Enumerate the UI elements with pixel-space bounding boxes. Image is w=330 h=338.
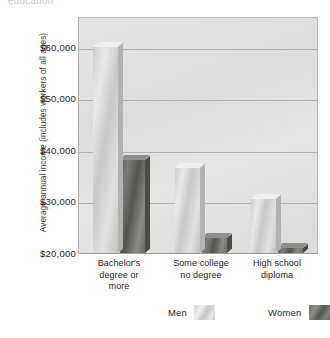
x-category-label-2: High schooldiploma [232,258,322,281]
legend-label: Men [168,307,187,318]
y-tick-label: $50,000 [24,93,76,104]
chart-legend: MenWomen [0,305,329,331]
bar-front-face [175,168,200,253]
legend-item-women: Women [268,305,330,320]
legend-item-men: Men [168,305,215,320]
plot-area [78,17,318,254]
bar-side-face [145,156,150,253]
y-tick-label: $30,000 [24,196,76,207]
y-tick-label: $20,000 [24,248,76,259]
legend-label: Women [268,307,302,318]
x-category-label-line: diploma [232,270,322,282]
bar-side-face [227,233,232,253]
x-category-label-line: degree or [74,270,164,282]
x-category-label-line: High school [232,258,322,270]
bar-front-face [278,248,303,253]
bar-front-face [251,199,276,253]
x-axis-category-labels: Bachelor'sdegree ormoreSome collegeno de… [78,258,318,300]
bar-women-2 [278,248,303,253]
bar-women-1 [202,238,227,253]
x-category-label-line: Bachelor's [74,258,164,270]
bar-side-face [118,43,123,253]
x-category-label-0: Bachelor'sdegree ormore [74,258,164,293]
bar-men-1 [175,168,200,253]
bar-women-0 [120,160,145,253]
men-swatch [194,305,215,320]
y-tick-label: $40,000 [24,145,76,156]
bar-front-face [202,238,227,253]
bar-front-face [120,160,145,253]
bar-front-face [93,47,118,253]
bar-side-face [276,195,281,253]
x-category-label-line: more [74,281,164,293]
bar-men-0 [93,47,118,253]
y-axis-tick-labels: $60,000$50,000$40,000$30,000$20,000 [24,0,76,338]
bar-men-2 [251,199,276,253]
y-tick-label: $60,000 [24,42,76,53]
women-swatch [309,305,330,320]
bar-side-face [200,164,205,253]
